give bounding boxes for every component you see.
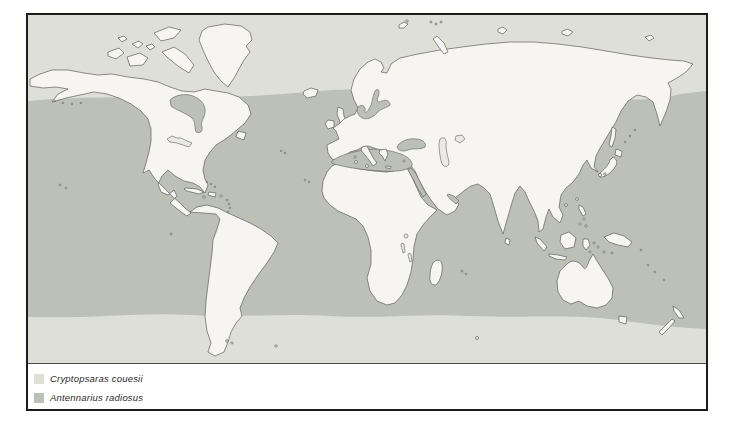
world-map	[28, 15, 706, 364]
corsica	[354, 156, 356, 158]
legend-item-antennarius: Antennarius radiosus	[34, 392, 706, 403]
crete	[386, 166, 391, 169]
cyprus	[403, 160, 405, 162]
lake-victoria	[404, 234, 408, 238]
world-map-svg	[28, 15, 706, 363]
legend-swatch-cryptopsaras	[34, 374, 44, 384]
legend-label-cryptopsaras: Cryptopsaras couesii	[50, 373, 143, 384]
taiwan	[576, 198, 579, 201]
sardinia	[355, 161, 358, 164]
legend-label-antennarius: Antennarius radiosus	[50, 392, 143, 403]
distribution-map-figure: Cryptopsaras couesii Antennarius radiosu…	[26, 13, 708, 411]
hainan	[565, 204, 568, 207]
sicily	[366, 165, 369, 168]
legend: Cryptopsaras couesii Antennarius radiosu…	[28, 364, 706, 409]
legend-swatch-antennarius	[34, 393, 44, 403]
legend-item-cryptopsaras: Cryptopsaras couesii	[34, 373, 706, 384]
